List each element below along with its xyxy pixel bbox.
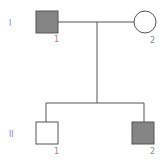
- individual-number-I-1: 1: [54, 35, 59, 44]
- individual-number-I-2: 2: [150, 36, 155, 45]
- generation-label-2: II: [9, 130, 14, 139]
- pedigree-canvas: I II 1 2 1 2: [0, 0, 166, 162]
- individual-number-II-1: 1: [54, 147, 59, 156]
- individual-II-2-affected-male: [132, 122, 154, 144]
- pedigree-diagram: I II 1 2 1 2: [0, 0, 166, 162]
- individual-II-1-unaffected-male: [36, 122, 58, 144]
- individual-number-II-2: 2: [150, 147, 155, 156]
- individual-I-2-unaffected-female: [134, 11, 156, 33]
- generation-label-1: I: [9, 19, 11, 28]
- individual-I-1-affected-male: [36, 11, 58, 33]
